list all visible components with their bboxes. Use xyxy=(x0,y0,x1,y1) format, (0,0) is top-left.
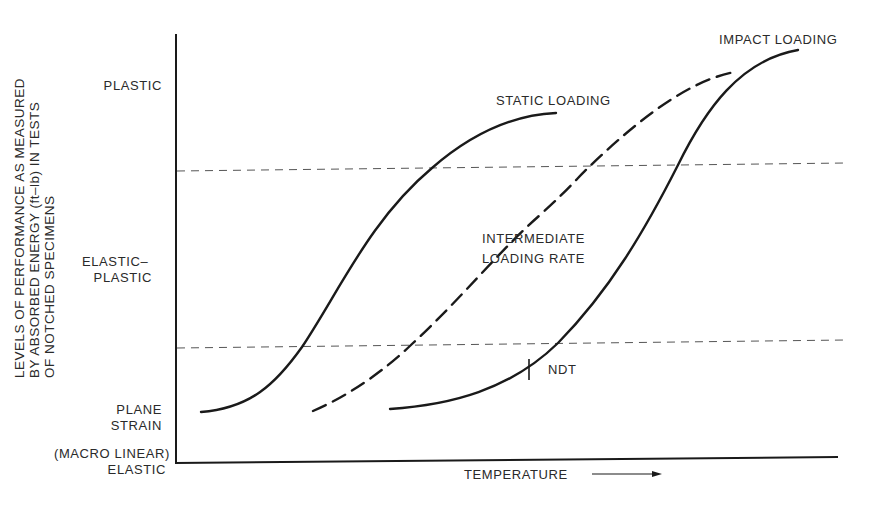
ndt-label: NDT xyxy=(548,362,577,378)
temperature-arrow-head xyxy=(652,471,662,477)
intermediate-loading-label: INTERMEDIATE LOADING RATE xyxy=(482,229,585,269)
y-category-plastic: PLASTIC xyxy=(88,78,162,94)
x-axis xyxy=(175,457,838,463)
intermediate-line-2: LOADING RATE xyxy=(482,249,585,269)
impact-loading-label: IMPACT LOADING xyxy=(719,32,837,48)
macro-linear-label: (MACRO LINEAR) xyxy=(20,446,170,462)
plane-strain-line-1: PLANE xyxy=(90,402,162,418)
static-loading-label: STATIC LOADING xyxy=(496,93,611,109)
y-axis-label-line-1: LEVELS OF PERFORMANCE AS MEASURED xyxy=(12,78,27,378)
elastic-plastic-line-2: PLASTIC xyxy=(82,270,166,286)
lower-boundary-line xyxy=(177,340,846,348)
intermediate-line-1: INTERMEDIATE xyxy=(482,229,585,249)
y-axis-label: LEVELS OF PERFORMANCE AS MEASURED BY ABS… xyxy=(12,78,57,378)
y-axis-label-line-2: BY ABSORBED ENERGY (ft–lb) IN TESTS xyxy=(27,78,42,378)
y-axis-label-line-3: OF NOTCHED SPECIMENS xyxy=(42,78,57,378)
upper-boundary-line xyxy=(177,163,846,171)
y-category-macro-linear-elastic: (MACRO LINEAR) ELASTIC xyxy=(20,446,170,478)
plastic-label: PLASTIC xyxy=(104,78,162,93)
elastic-label: ELASTIC xyxy=(20,462,170,478)
elastic-plastic-line-1: ELASTIC– xyxy=(82,254,166,270)
y-category-plane-strain: PLANE STRAIN xyxy=(90,402,162,434)
x-axis-label: TEMPERATURE xyxy=(464,467,568,483)
temperature-label: TEMPERATURE xyxy=(464,467,568,482)
plane-strain-line-2: STRAIN xyxy=(90,418,162,434)
y-category-elastic-plastic: ELASTIC– PLASTIC xyxy=(82,254,166,286)
